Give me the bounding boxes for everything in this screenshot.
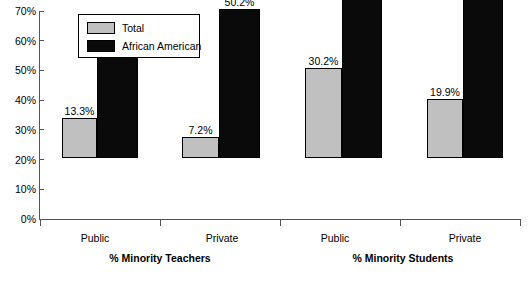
category-label-0: Public [81,232,110,245]
legend-swatch-total-icon [87,22,115,34]
x-axis-tick-mark [280,220,281,226]
legend-swatch-african-american-icon [87,40,115,52]
legend-label-total: Total [122,22,144,34]
legend-label-african-american: African American [122,40,201,52]
x-axis-tick-mark [400,220,401,226]
bar-total-1: 7.2% [182,137,219,158]
bar-value-label: 30.2% [309,55,339,67]
bar-chart: 0%10%20%30%40%50%60%70% 13.3%41.3%7.2%50… [0,0,528,282]
x-axis-tick-mark [160,220,161,226]
category-label-2: Public [321,232,350,245]
legend-item-total: Total [87,20,193,35]
bar-total-3: 19.9% [427,99,463,158]
bar-total-2: 30.2% [305,68,342,158]
bar-value-label: 19.9% [430,86,460,98]
group-title-1: % Minority Students [353,252,454,265]
legend-item-african-american: African American [87,38,193,53]
group-title-0: % Minority Teachers [109,252,210,265]
bar-total-0: 13.3% [62,118,97,158]
bar-african-american-1: 50.2% [219,9,260,158]
bar-value-label: 50.2% [225,0,255,8]
x-axis-tick-mark [40,220,41,226]
category-label-1: Private [206,232,239,245]
bar-african-american-2: 66.8% [342,0,382,158]
bar-value-label: 13.3% [65,105,95,117]
chart-legend: Total African American [78,14,200,58]
bar-african-american-3: 69.7% [463,0,503,158]
bar-value-label: 7.2% [189,124,213,136]
category-label-3: Private [449,232,482,245]
x-axis-tick-mark [520,220,521,226]
